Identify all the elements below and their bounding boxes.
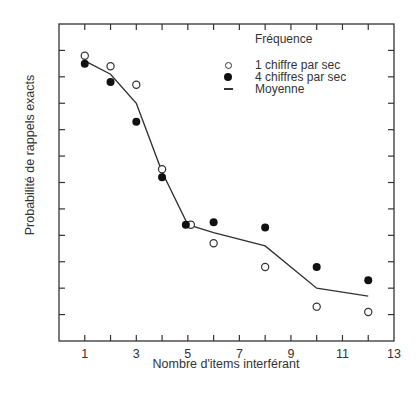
- open-circle-icon: [218, 62, 238, 69]
- legend-title: Fréquence: [255, 33, 346, 46]
- legend-label: Moyenne: [255, 83, 304, 96]
- series-moyenne-line: [85, 61, 368, 296]
- chart-plot: 135791113: [0, 0, 420, 393]
- x-tick-label: 3: [133, 347, 140, 361]
- legend-item-moyenne: Moyenne: [218, 83, 346, 95]
- filled-circle-icon: [218, 73, 238, 81]
- x-tick-label: 11: [336, 347, 349, 361]
- x-axis-label: Nombre d'items interférant: [153, 357, 300, 371]
- legend: Fréquence 1 chiffre par sec 4 chiffres p…: [218, 33, 346, 95]
- x-tick-label: 13: [387, 347, 401, 361]
- x-tick-label: 1: [81, 347, 88, 361]
- line-dash-icon: [218, 88, 238, 90]
- y-axis-label: Probabilité de rappels exacts: [23, 75, 37, 236]
